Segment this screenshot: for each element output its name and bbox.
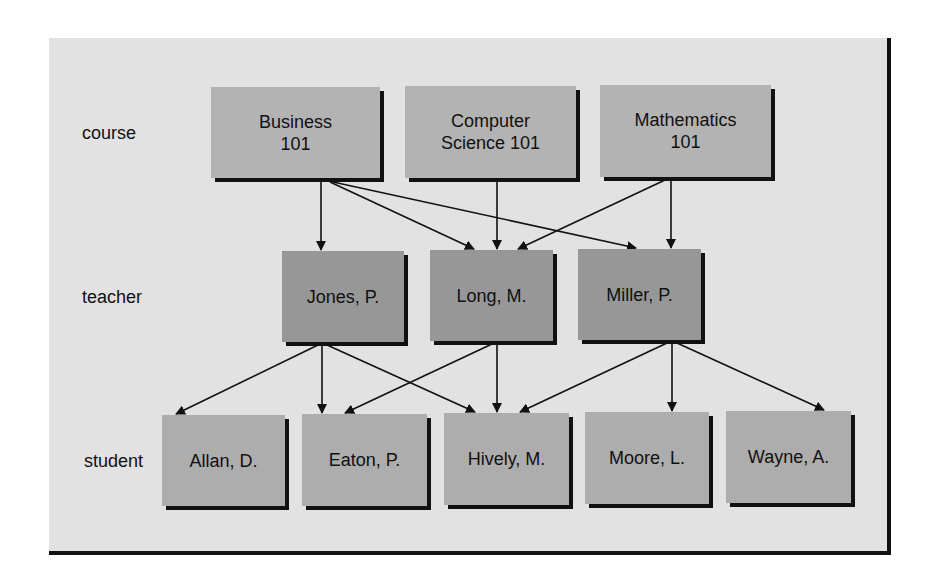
node-label: Long, M. xyxy=(456,285,526,307)
node-label: Allan, D. xyxy=(189,450,257,472)
node-label: Computer Science 101 xyxy=(441,110,540,154)
node-label: Hively, M. xyxy=(468,448,546,470)
node-label: Moore, L. xyxy=(609,447,685,469)
student-node-hively[interactable]: Hively, M. xyxy=(444,413,569,505)
course-node-math101[interactable]: Mathematics 101 xyxy=(600,85,771,177)
teacher-node-miller[interactable]: Miller, P. xyxy=(578,249,701,340)
node-label: Miller, P. xyxy=(606,284,673,306)
level-label-student: student xyxy=(84,451,143,471)
student-node-eaton[interactable]: Eaton, P. xyxy=(302,414,427,506)
student-node-allan[interactable]: Allan, D. xyxy=(162,415,285,506)
student-node-wayne[interactable]: Wayne, A. xyxy=(726,411,851,503)
node-label: Business 101 xyxy=(259,111,332,155)
node-label: Eaton, P. xyxy=(329,449,401,471)
level-label-course: course xyxy=(82,123,136,143)
node-label: Jones, P. xyxy=(307,286,380,308)
node-label: Wayne, A. xyxy=(748,446,829,468)
teacher-node-jones[interactable]: Jones, P. xyxy=(282,251,404,342)
node-label: Mathematics 101 xyxy=(634,109,736,153)
level-label-teacher: teacher xyxy=(82,287,142,307)
teacher-node-long[interactable]: Long, M. xyxy=(430,250,553,341)
course-node-business101[interactable]: Business 101 xyxy=(211,87,380,178)
student-node-moore[interactable]: Moore, L. xyxy=(585,412,709,504)
course-node-cs101[interactable]: Computer Science 101 xyxy=(405,86,576,178)
